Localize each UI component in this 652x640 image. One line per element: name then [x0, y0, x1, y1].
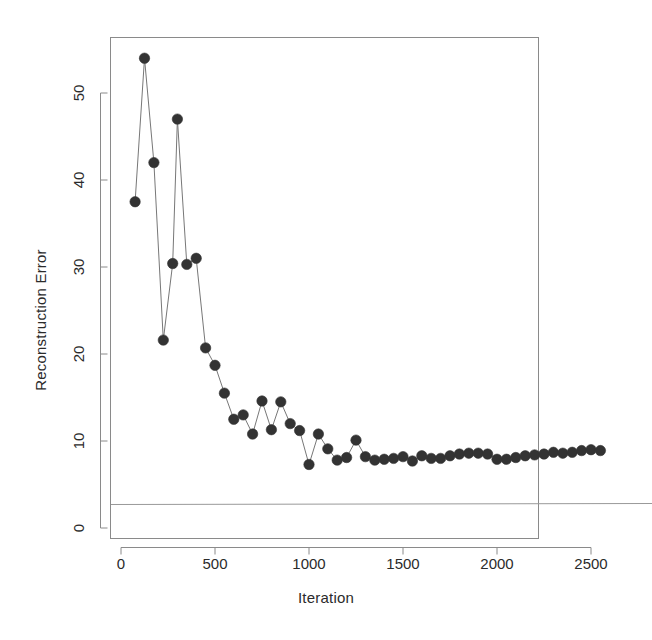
data-point-marker	[172, 114, 182, 124]
data-point-marker	[586, 445, 596, 455]
x-axis-tick-label: 2500	[574, 555, 607, 572]
data-point-marker	[210, 360, 220, 370]
data-point-marker	[313, 429, 323, 439]
data-point-marker	[276, 397, 286, 407]
data-point-marker	[158, 335, 168, 345]
plot-frame	[111, 38, 539, 539]
x-axis-title: Iteration	[0, 589, 652, 606]
data-series-line	[135, 58, 600, 464]
y-axis-tick-label: 50	[70, 85, 87, 102]
data-point-marker	[304, 459, 314, 469]
data-point-marker	[168, 258, 178, 268]
x-axis-tick-label: 500	[202, 555, 227, 572]
data-point-marker	[482, 449, 492, 459]
data-point-marker	[595, 445, 605, 455]
data-point-marker	[149, 157, 159, 167]
data-point-marker	[130, 197, 140, 207]
data-point-marker	[370, 455, 380, 465]
data-point-marker	[435, 453, 445, 463]
data-point-marker	[341, 452, 351, 462]
y-axis-tick-label: 10	[70, 433, 87, 450]
data-point-marker	[257, 396, 267, 406]
data-point-marker	[445, 451, 455, 461]
data-point-marker	[473, 448, 483, 458]
data-point-marker	[558, 448, 568, 458]
data-point-marker	[238, 410, 248, 420]
data-point-marker	[351, 435, 361, 445]
y-axis-tick-label: 40	[70, 172, 87, 189]
data-point-marker	[417, 451, 427, 461]
data-point-marker	[200, 343, 210, 353]
x-axis-tick-label: 1500	[386, 555, 419, 572]
data-point-marker	[266, 424, 276, 434]
data-point-marker	[398, 451, 408, 461]
data-point-marker	[285, 418, 295, 428]
data-point-marker	[229, 414, 239, 424]
x-axis-tick-label: 2000	[480, 555, 513, 572]
data-point-marker	[379, 454, 389, 464]
data-point-marker	[407, 456, 417, 466]
data-point-marker	[529, 450, 539, 460]
reconstruction-error-line-chart: 0102030405005001000150020002500	[0, 0, 652, 640]
data-point-marker	[511, 452, 521, 462]
data-point-marker	[426, 453, 436, 463]
data-point-marker	[454, 449, 464, 459]
data-point-marker	[294, 425, 304, 435]
data-point-marker	[464, 448, 474, 458]
x-axis-tick-label: 0	[117, 555, 125, 572]
data-point-marker	[191, 253, 201, 263]
data-point-marker	[247, 429, 257, 439]
data-point-marker	[388, 453, 398, 463]
y-axis-tick-label: 20	[70, 346, 87, 363]
data-point-marker	[567, 447, 577, 457]
data-point-marker	[501, 454, 511, 464]
y-axis-tick-label: 30	[70, 259, 87, 276]
data-point-marker	[332, 455, 342, 465]
data-point-marker	[576, 445, 586, 455]
data-point-marker	[520, 451, 530, 461]
data-point-marker	[548, 447, 558, 457]
data-point-marker	[323, 444, 333, 454]
data-point-marker	[182, 259, 192, 269]
y-axis-tick-label: 0	[70, 524, 87, 532]
reference-line	[111, 504, 652, 505]
data-point-marker	[139, 53, 149, 63]
chart-figure: 0102030405005001000150020002500 Iteratio…	[0, 0, 652, 640]
data-point-marker	[360, 451, 370, 461]
data-point-marker	[219, 388, 229, 398]
data-point-marker	[492, 454, 502, 464]
data-point-marker	[539, 449, 549, 459]
x-axis-tick-label: 1000	[292, 555, 325, 572]
